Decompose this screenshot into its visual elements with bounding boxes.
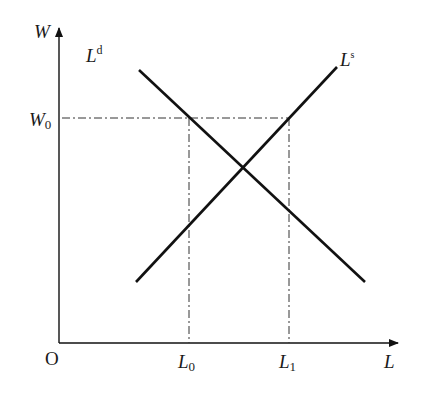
labor-market-diagram: W Ld Ls W0 O L0 L1 L [0, 0, 423, 400]
demand-label-main: L [85, 45, 97, 66]
labor-demand-curve [139, 70, 365, 282]
l0-label-sub: 0 [189, 359, 196, 374]
supply-label-main: L [339, 49, 351, 70]
supply-label-sup: s [351, 49, 355, 60]
demand-curve-label: Ld [85, 43, 103, 66]
w0-label: W0 [29, 109, 51, 132]
x-axis-label: L [383, 351, 395, 372]
l0-label: L0 [177, 351, 195, 374]
labor-supply-curve [136, 67, 337, 282]
l1-label: L1 [278, 351, 296, 374]
l0-label-main: L [177, 351, 189, 372]
y-axis-label: W [34, 21, 52, 42]
l1-label-main: L [278, 351, 290, 372]
origin-label: O [45, 348, 59, 369]
supply-curve-label: Ls [339, 49, 355, 70]
w0-label-sub: 0 [45, 117, 52, 132]
l1-label-sub: 1 [290, 359, 297, 374]
demand-label-sup: d [97, 43, 103, 57]
